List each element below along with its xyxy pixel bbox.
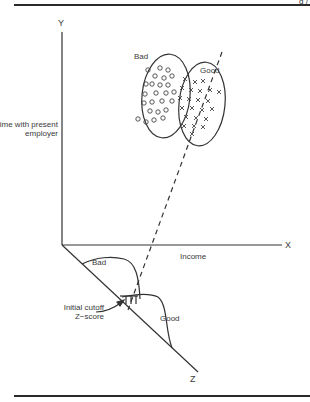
cutoff-label: Initial cutoff Z−score — [44, 303, 104, 321]
x-axis-letter: X — [285, 240, 291, 250]
y-axis-letter: Y — [58, 18, 64, 28]
good-cluster-label: Good — [200, 66, 220, 75]
x-axis-label: Income — [180, 252, 206, 261]
good-markers — [178, 77, 221, 136]
bad-distribution-curve — [82, 257, 140, 299]
bottom-rule — [14, 395, 310, 397]
good-distribution-label: Good — [160, 314, 180, 323]
y-axis-label: Time with present employer — [0, 120, 58, 138]
bad-distribution-label: Bad — [92, 258, 106, 267]
z-axis-letter: Z — [190, 374, 196, 384]
bad-cluster-label: Bad — [134, 52, 148, 61]
diagram-canvas — [0, 0, 310, 402]
